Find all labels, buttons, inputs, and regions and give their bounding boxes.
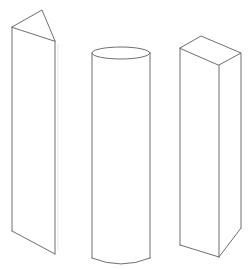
prism-bottom-edge [12,231,55,254]
triangular-prism [12,10,58,254]
box-bottom-left-edge [180,245,219,257]
cylinder [92,47,150,264]
prism-top-face [12,10,55,41]
shapes-svg [0,0,249,269]
rectangular-prism [180,36,241,257]
box-top-face [180,36,241,65]
shapes-figure [0,0,249,269]
cylinder-bottom-arc [92,258,150,264]
box-bottom-right-edge [219,228,241,257]
cylinder-top-ellipse [92,47,150,59]
